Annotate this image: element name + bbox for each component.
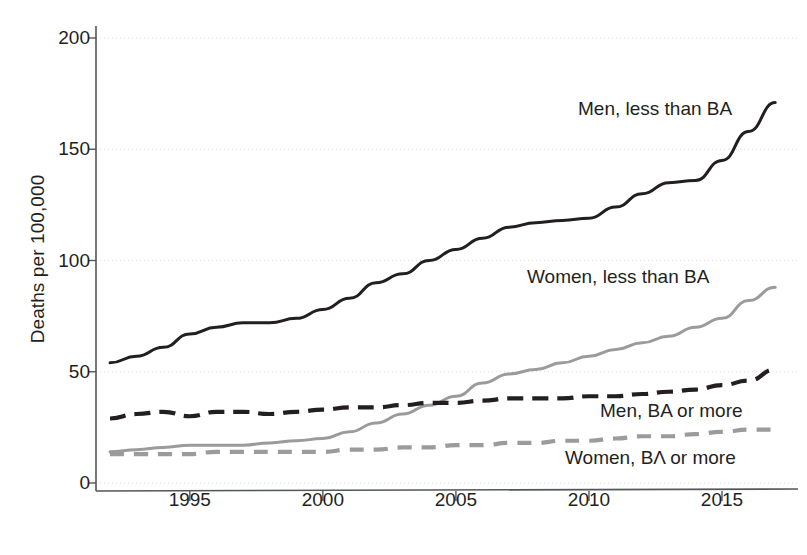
y-tick-label: 150 bbox=[34, 138, 90, 160]
series-label-women-less-than-ba: Women, less than BA bbox=[527, 266, 709, 288]
y-tick-label: 50 bbox=[34, 361, 90, 383]
x-tick-label: 2005 bbox=[416, 489, 496, 511]
x-tick-label: 2010 bbox=[549, 489, 629, 511]
series-line-women-less-than-ba bbox=[110, 287, 775, 452]
line-chart-figure: Deaths per 100,000 050100150200 19952000… bbox=[0, 0, 807, 555]
y-axis-tick-labels: 050100150200 bbox=[0, 0, 90, 555]
y-tick-label: 0 bbox=[34, 472, 90, 494]
leader-women-less-than-ba bbox=[716, 297, 760, 313]
series-label-men-ba-or-more: Men, BA or more bbox=[600, 400, 743, 422]
y-tick-label: 100 bbox=[34, 250, 90, 272]
series-label-men-less-than-ba: Men, less than BA bbox=[578, 98, 732, 120]
x-tick-label: 2015 bbox=[682, 489, 762, 511]
leader-lines bbox=[716, 96, 768, 313]
series-label-women-ba-or-more: Women, BΛ or more bbox=[565, 447, 736, 469]
x-tick-label: 2000 bbox=[283, 489, 363, 511]
series-line-men-less-than-ba bbox=[110, 103, 775, 363]
x-tick-label: 1995 bbox=[150, 489, 230, 511]
y-tick-label: 200 bbox=[34, 27, 90, 49]
